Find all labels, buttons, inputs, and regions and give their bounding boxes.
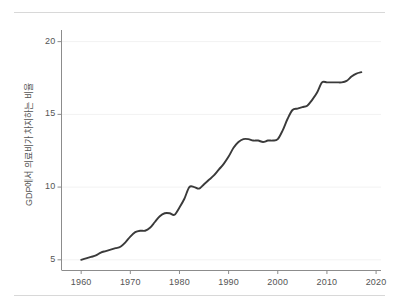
chart-figure: GDP에서 의료비가 차지하는 비율 5101520 1960197019801… <box>0 0 399 308</box>
x-tick-label-2000: 2000 <box>258 277 298 287</box>
x-tick-label-1980: 1980 <box>159 277 199 287</box>
x-tick-label-1990: 1990 <box>209 277 249 287</box>
plot-canvas <box>0 0 399 308</box>
x-tick-label-2010: 2010 <box>307 277 347 287</box>
y-axis-ticks <box>58 42 62 260</box>
x-tick-label-1960: 1960 <box>61 277 101 287</box>
y-tick-label-5: 5 <box>34 254 56 264</box>
gridlines <box>62 42 382 260</box>
y-tick-label-10: 10 <box>34 181 56 191</box>
x-tick-label-1970: 1970 <box>110 277 150 287</box>
axis-lines <box>62 30 382 271</box>
x-tick-label-2020: 2020 <box>356 277 396 287</box>
y-tick-label-20: 20 <box>34 36 56 46</box>
y-tick-label-15: 15 <box>34 108 56 118</box>
data-series-line <box>81 72 361 260</box>
